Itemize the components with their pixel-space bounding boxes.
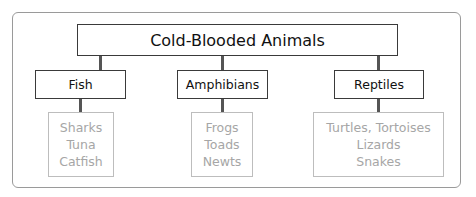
connector-amphibians-list <box>221 99 224 112</box>
list-item: Sharks <box>60 119 102 136</box>
connector-fish-list <box>79 99 82 112</box>
category-label-fish: Fish <box>68 77 92 92</box>
list-item: Tuna <box>66 136 95 153</box>
list-item: Catfish <box>59 153 103 170</box>
category-label-reptiles: Reptiles <box>354 77 404 92</box>
category-node-fish: Fish <box>35 70 126 99</box>
connector-title-reptiles <box>377 56 380 70</box>
list-item: Frogs <box>205 119 238 136</box>
list-item: Newts <box>203 153 242 170</box>
list-item: Toads <box>204 136 239 153</box>
list-node-amphibians: Frogs Toads Newts <box>191 112 253 177</box>
root-node-cold-blooded-animals: Cold-Blooded Animals <box>77 24 398 56</box>
category-node-reptiles: Reptiles <box>334 70 424 99</box>
category-node-amphibians: Amphibians <box>177 70 268 99</box>
list-item: Lizards <box>356 136 400 153</box>
root-node-label: Cold-Blooded Animals <box>150 31 325 50</box>
connector-title-fish <box>99 56 102 70</box>
list-node-fish: Sharks Tuna Catfish <box>48 112 114 177</box>
connector-reptiles-list <box>377 99 380 112</box>
connector-title-amphibians <box>221 56 224 70</box>
list-item: Snakes <box>356 153 401 170</box>
list-item: Turtles, Tortoises <box>326 119 430 136</box>
list-node-reptiles: Turtles, Tortoises Lizards Snakes <box>313 112 444 177</box>
category-label-amphibians: Amphibians <box>186 77 260 92</box>
